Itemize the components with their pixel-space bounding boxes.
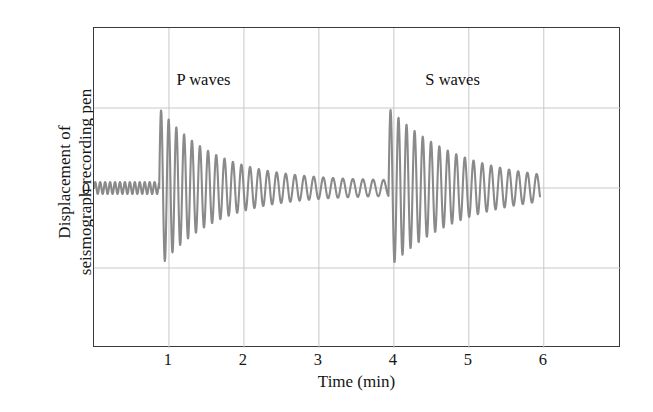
plot-area: P waves S waves — [93, 27, 620, 347]
x-tick-label: 3 — [305, 350, 331, 370]
y-tick-label-zero: 0 — [72, 180, 90, 198]
annotation-p-waves: P waves — [176, 70, 230, 90]
seismogram-figure: Displacement of seismograph recording pe… — [0, 0, 653, 412]
annotation-s-waves: S waves — [425, 70, 480, 90]
seismogram-plot-svg — [94, 28, 621, 348]
x-axis-title: Time (min) — [93, 372, 620, 392]
x-tick-label: 5 — [455, 350, 481, 370]
x-tick-label: 2 — [230, 350, 256, 370]
x-tick-label: 6 — [530, 350, 556, 370]
seismogram-trace — [94, 110, 540, 262]
x-tick-label: 1 — [155, 350, 181, 370]
x-tick-label: 4 — [380, 350, 406, 370]
